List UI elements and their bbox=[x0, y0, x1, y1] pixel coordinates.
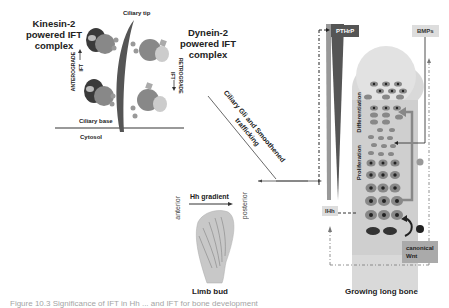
wnt-dot-icon bbox=[416, 225, 424, 233]
canonical-wnt-box: canonical Wnt bbox=[402, 241, 438, 263]
bmps-box: BMPs bbox=[412, 25, 439, 37]
ihh-box: IHh bbox=[322, 206, 338, 216]
proliferation-label: Proliferation bbox=[356, 145, 362, 180]
limb-bud-title: Limb bud bbox=[192, 287, 228, 296]
limb-bud-icon bbox=[196, 210, 234, 283]
posterior-label: posterior bbox=[241, 192, 248, 219]
arrow-to-limb-icon bbox=[258, 180, 262, 183]
dynein-complex-icon bbox=[131, 39, 170, 62]
kinesin-complex-icon bbox=[84, 79, 116, 107]
hh-gradient-arrow-icon bbox=[228, 202, 233, 206]
hh-gradient-label: Hh gradient bbox=[190, 193, 229, 200]
growing-bone-title: Growing long bone bbox=[345, 287, 418, 296]
kinesin-complex-icon bbox=[86, 28, 119, 54]
pthrp-gradient bbox=[331, 24, 344, 200]
bmp-dot-icon bbox=[417, 159, 424, 166]
pthrp-box: PTHrP bbox=[331, 25, 359, 37]
dynein-complex-icon bbox=[131, 82, 168, 118]
figure-caption: Figure 10.3 Significance of IFT in Hh ..… bbox=[10, 299, 258, 308]
differentiation-label: Differentiation bbox=[356, 92, 362, 133]
cilium-icon bbox=[116, 20, 134, 132]
anterior-label: anterior bbox=[174, 196, 181, 220]
